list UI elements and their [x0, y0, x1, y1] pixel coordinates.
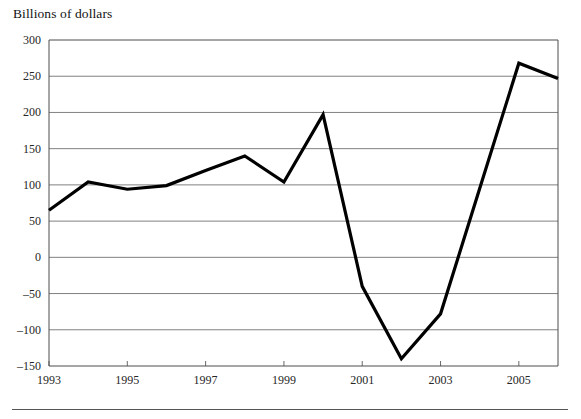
y-tick-label: 250: [23, 69, 41, 83]
gridlines-group: [49, 76, 558, 330]
data-series-line: [49, 63, 558, 359]
y-tick-label: 100: [23, 178, 41, 192]
y-tick-label: –50: [22, 287, 41, 301]
x-tick-label: 2001: [350, 373, 374, 387]
x-tick-label: 2003: [429, 373, 453, 387]
y-tick-label: 150: [23, 142, 41, 156]
y-tick-label: 300: [23, 33, 41, 47]
x-tickmarks-group: [49, 361, 519, 366]
line-chart-plot: 300250200150100500–50–100–150 1993199519…: [0, 0, 581, 419]
y-tick-label: 200: [23, 105, 41, 119]
chart-figure: Billions of dollars 300250200150100500–5…: [0, 0, 581, 419]
x-tick-label: 1993: [37, 373, 61, 387]
y-tick-label: –100: [16, 323, 41, 337]
x-tick-label: 2005: [507, 373, 531, 387]
x-axis-labels-group: 1993199519971999200120032005: [37, 373, 531, 387]
x-tick-label: 1997: [194, 373, 218, 387]
axis-frame: [49, 40, 558, 366]
footer-divider: [12, 409, 568, 410]
y-axis-labels-group: 300250200150100500–50–100–150: [16, 33, 41, 373]
y-tick-label: 50: [29, 214, 41, 228]
y-tick-label: 0: [35, 250, 41, 264]
y-tick-label: –150: [16, 359, 41, 373]
x-tick-label: 1995: [115, 373, 139, 387]
x-tick-label: 1999: [272, 373, 296, 387]
